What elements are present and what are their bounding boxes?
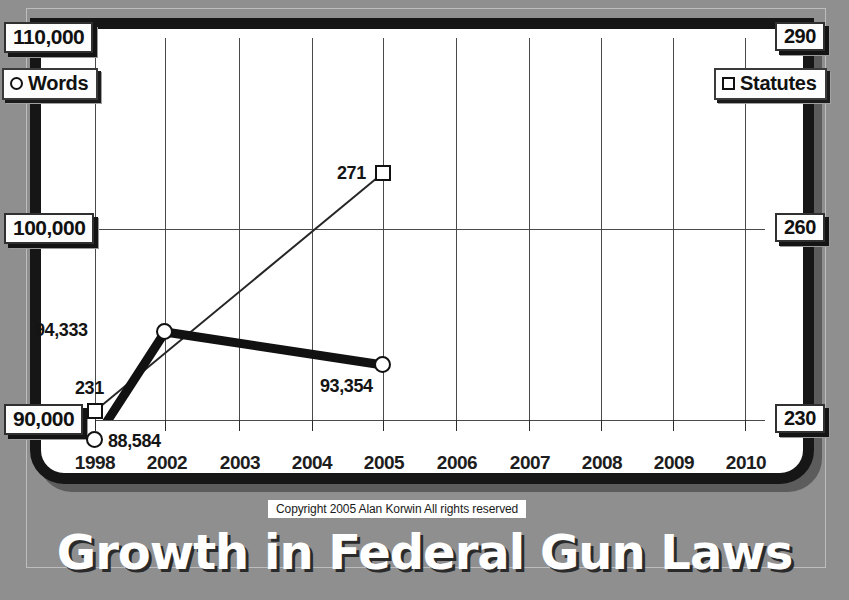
datapoint-label-words-2002: 94,333 <box>35 320 88 341</box>
datapoint-words-2005[interactable] <box>374 356 391 373</box>
yaxis-left-label-110000: 110,000 <box>4 22 93 53</box>
legend-words-label: Words <box>28 72 88 95</box>
circle-marker-icon <box>10 77 23 90</box>
datapoint-label-words-1998: 88,584 <box>108 431 161 452</box>
gridline-horizontal-90000 <box>95 420 765 421</box>
xaxis-label-2010: 2010 <box>726 452 766 474</box>
xtick-2003 <box>239 420 240 431</box>
legend-words[interactable]: Words <box>2 68 98 100</box>
poster-background: 271 94,333 93,354 231 88,584 1998 2002 2… <box>0 0 849 600</box>
plot-area: 271 94,333 93,354 231 88,584 <box>95 38 765 420</box>
xtick-2002 <box>165 420 166 431</box>
xtick-2009 <box>673 420 674 431</box>
yaxis-left-label-100000: 100,000 <box>4 213 94 244</box>
xtick-2007 <box>529 420 530 431</box>
xaxis-label-2009: 2009 <box>654 452 694 474</box>
xtick-2004 <box>312 420 313 431</box>
series-words-line <box>95 38 765 420</box>
datapoint-label-words-2005: 93,354 <box>320 376 373 397</box>
datapoint-words-1998[interactable] <box>86 431 103 448</box>
xaxis-label-2002: 2002 <box>147 452 187 474</box>
datapoint-statutes-2005[interactable] <box>375 165 391 181</box>
xtick-2005 <box>383 420 384 431</box>
xtick-1998 <box>95 420 96 431</box>
datapoint-label-statutes-1998: 231 <box>75 378 104 399</box>
xaxis-label-2006: 2006 <box>437 452 477 474</box>
xtick-2006 <box>456 420 457 431</box>
xaxis-label-2008: 2008 <box>582 452 622 474</box>
xtick-2008 <box>601 420 602 431</box>
yaxis-right-label-290: 290 <box>775 22 825 51</box>
xaxis-label-2004: 2004 <box>292 452 332 474</box>
xtick-2010 <box>745 420 746 431</box>
datapoint-statutes-1998[interactable] <box>87 403 103 419</box>
xaxis-label-1998: 1998 <box>75 452 115 474</box>
yaxis-right-label-260: 260 <box>775 213 825 242</box>
chart-title: Growth in Federal Gun Laws <box>0 524 849 580</box>
yaxis-right-label-230: 230 <box>775 404 825 433</box>
xaxis-label-2007: 2007 <box>510 452 550 474</box>
copyright-notice: Copyright 2005 Alan Korwin All rights re… <box>268 500 526 518</box>
xaxis-label-2003: 2003 <box>220 452 260 474</box>
datapoint-words-2002[interactable] <box>156 323 173 340</box>
datapoint-label-statutes-2005: 271 <box>337 163 366 184</box>
xaxis-label-2005: 2005 <box>364 452 404 474</box>
yaxis-left-label-90000: 90,000 <box>4 404 83 435</box>
